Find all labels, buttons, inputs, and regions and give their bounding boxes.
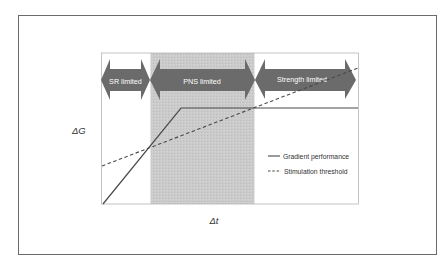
sr-limited-arrow: SR limited: [101, 59, 150, 100]
sr-limited-label: SR limited: [109, 77, 142, 86]
y-axis-label: ΔG: [71, 125, 86, 136]
strength-limited-arrow: Strength limited: [255, 59, 356, 99]
legend-stimulation-threshold: Stimulation threshold: [284, 168, 348, 175]
legend: Gradient performance Stimulation thresho…: [268, 153, 349, 175]
diagram-canvas: SR limited PNS limited Strength limited …: [0, 0, 447, 269]
pns-limited-label: PNS limited: [183, 77, 221, 86]
strength-limited-label: Strength limited: [277, 75, 327, 84]
legend-gradient-performance: Gradient performance: [283, 153, 349, 161]
x-axis-label: Δt: [208, 215, 218, 226]
